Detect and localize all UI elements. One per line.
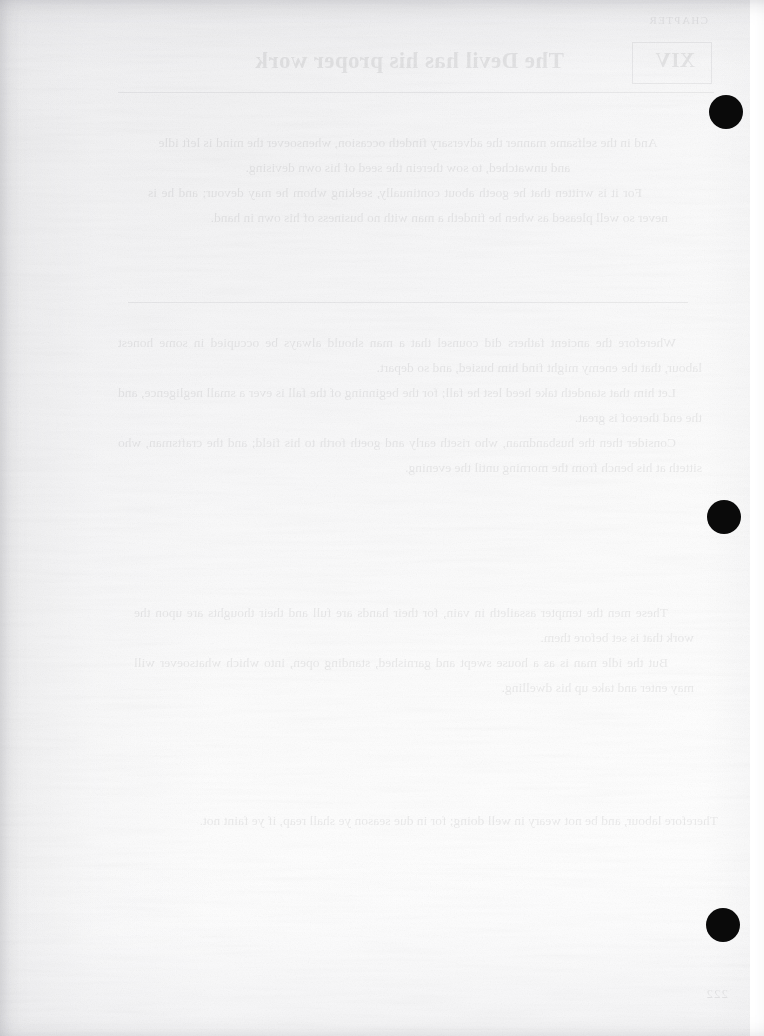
paper-grain-texture <box>0 0 764 1036</box>
scanned-page: CHAPTER XIV The Devil has his proper wor… <box>0 0 764 1036</box>
page-right-edge <box>750 0 764 1036</box>
registration-dot-bottom <box>706 908 740 942</box>
registration-dot-top <box>709 95 743 129</box>
registration-dot-middle <box>707 500 741 534</box>
